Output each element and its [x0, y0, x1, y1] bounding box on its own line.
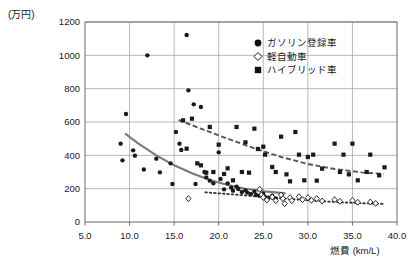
data-point — [302, 178, 306, 182]
data-point — [338, 170, 342, 174]
data-point — [186, 88, 190, 92]
trendline-solid — [125, 134, 285, 194]
data-point — [184, 33, 188, 37]
x-tick-label: 25.0 — [254, 230, 273, 241]
data-point — [234, 125, 238, 129]
y-tick-labels: 020040060080010001200 — [59, 16, 80, 227]
data-point — [261, 145, 265, 149]
data-point — [231, 188, 235, 192]
data-point — [174, 130, 178, 134]
y-tick-label: 600 — [64, 116, 80, 127]
x-tick-label: 35.0 — [343, 230, 362, 241]
data-point — [168, 161, 172, 165]
chart-legend: ガソリン登録車軽自動車ハイブリッド車 — [254, 37, 337, 75]
x-tick-label: 40.0 — [388, 230, 407, 241]
data-point — [208, 178, 212, 182]
data-point — [193, 182, 197, 186]
data-point — [218, 177, 222, 181]
legend-marker-open-diamond — [254, 53, 262, 61]
x-tick-label: 30.0 — [299, 230, 318, 241]
x-tick-labels: 5.010.015.020.025.030.035.040.0 — [78, 230, 406, 241]
data-point — [356, 178, 360, 182]
legend-label: ハイブリッド車 — [267, 64, 337, 75]
data-points-layer — [118, 33, 386, 207]
data-point — [158, 170, 162, 174]
y-tick-label: 400 — [64, 150, 80, 161]
data-point — [279, 135, 283, 139]
data-point — [288, 179, 292, 183]
data-point — [145, 53, 149, 57]
data-point — [297, 153, 301, 157]
data-point — [226, 166, 230, 170]
data-point — [270, 165, 274, 169]
data-point — [231, 178, 235, 182]
data-point — [185, 147, 189, 151]
data-point — [177, 141, 181, 145]
data-point — [320, 167, 324, 171]
data-point — [274, 170, 278, 174]
x-tick-label: 15.0 — [165, 230, 184, 241]
data-point — [293, 130, 297, 134]
data-point — [217, 143, 221, 147]
data-point — [311, 153, 315, 157]
plot-svg: 020040060080010001200 5.010.015.020.025.… — [0, 0, 414, 260]
data-point — [247, 171, 251, 175]
y-tick-label: 800 — [64, 83, 80, 94]
data-point — [284, 172, 288, 176]
data-point — [347, 172, 351, 176]
data-point — [204, 171, 208, 175]
x-tick-label: 5.0 — [78, 230, 91, 241]
data-point — [154, 156, 158, 160]
legend-marker-filled-circle — [255, 40, 262, 47]
x-tick-label: 10.0 — [120, 230, 139, 241]
data-point — [236, 187, 240, 191]
data-point — [365, 170, 369, 174]
data-point — [217, 150, 221, 154]
data-point — [199, 105, 203, 109]
x-tick-label: 20.0 — [209, 230, 228, 241]
data-point — [341, 153, 345, 157]
data-point — [337, 198, 342, 204]
data-point — [186, 196, 191, 202]
data-point — [211, 181, 215, 185]
data-point — [211, 170, 215, 174]
data-point — [179, 148, 183, 152]
data-point — [320, 198, 325, 204]
data-point — [120, 158, 124, 162]
data-point — [199, 163, 203, 167]
data-point — [190, 117, 194, 121]
data-point — [181, 118, 185, 122]
data-point — [355, 199, 360, 205]
data-point — [243, 140, 247, 144]
y-tick-label: 1200 — [59, 16, 80, 27]
data-point — [131, 148, 135, 152]
y-tick-label: 1000 — [59, 50, 80, 61]
legend-marker-filled-square — [255, 67, 261, 73]
data-point — [133, 153, 137, 157]
data-point — [373, 200, 378, 206]
x-axis-unit-label: 燃費 (km/L) — [330, 243, 380, 257]
legend-label: ガソリン登録車 — [267, 37, 337, 48]
data-point — [350, 142, 354, 146]
data-point — [222, 187, 226, 191]
data-point — [170, 182, 174, 186]
data-point — [256, 147, 260, 151]
data-point — [124, 112, 128, 116]
data-point — [240, 170, 244, 174]
data-point — [252, 127, 256, 131]
data-point — [315, 179, 319, 183]
data-point — [377, 173, 381, 177]
data-point — [192, 102, 196, 106]
fuel-economy-price-scatter-chart: (万円) 020040060080010001200 5.010.015.020… — [0, 0, 414, 260]
y-tick-label: 200 — [64, 183, 80, 194]
data-point — [333, 142, 337, 146]
legend-label: 軽自動車 — [267, 51, 307, 62]
y-tick-label: 0 — [75, 216, 80, 227]
data-point — [142, 167, 146, 171]
data-point — [225, 181, 229, 185]
data-point — [204, 175, 208, 179]
data-point — [306, 155, 310, 159]
data-point — [222, 172, 226, 176]
data-point — [118, 141, 122, 145]
data-point — [368, 153, 372, 157]
